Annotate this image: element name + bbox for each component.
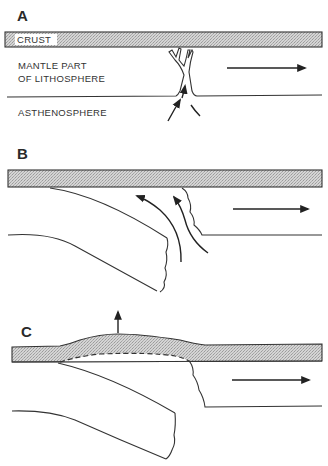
upwelling-flow-line	[191, 105, 200, 116]
lithosphere-delamination-diagram: A CRUST MANTLE PART OF LITHOSPHERE ASTHE…	[0, 0, 328, 466]
slab-bottom-edge	[8, 234, 157, 291]
upwelling-arrow-upper	[182, 86, 185, 98]
panel-c-label: C	[21, 323, 32, 340]
slab-top-edge-c	[58, 363, 175, 413]
upwelling-arrow-left	[137, 196, 181, 262]
mantle-lithosphere-label-line1: MANTLE PART	[18, 60, 87, 71]
upwelling-arrow-lower	[168, 100, 180, 121]
panel-b-label: B	[17, 145, 28, 162]
mantle-lithosphere-label-line2: OF LITHOSPHERE	[18, 73, 105, 84]
slab-top-edge	[50, 188, 167, 238]
panel-b: B	[8, 145, 322, 292]
crust-layer-b	[8, 170, 322, 187]
plate-torn-edge-c	[190, 362, 322, 407]
panel-a: A CRUST MANTLE PART OF LITHOSPHERE ASTHE…	[5, 7, 322, 121]
crust-label: CRUST	[17, 34, 51, 45]
slab-bottom-edge-c	[12, 411, 166, 459]
panel-a-label: A	[17, 7, 28, 24]
panel-c: C	[12, 312, 322, 459]
slab-broken-edge-c	[166, 413, 175, 459]
asthenosphere-label: ASTHENOSPHERE	[18, 107, 107, 118]
slab-broken-edge	[160, 238, 168, 292]
plate-torn-edge-b	[182, 188, 322, 235]
